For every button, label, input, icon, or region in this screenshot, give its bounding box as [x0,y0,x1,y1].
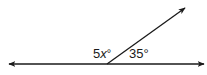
angle-label-right: 35° [129,46,149,61]
angle-diagram: 5x° 35° [0,0,207,75]
angle-label-left: 5x° [93,46,111,61]
